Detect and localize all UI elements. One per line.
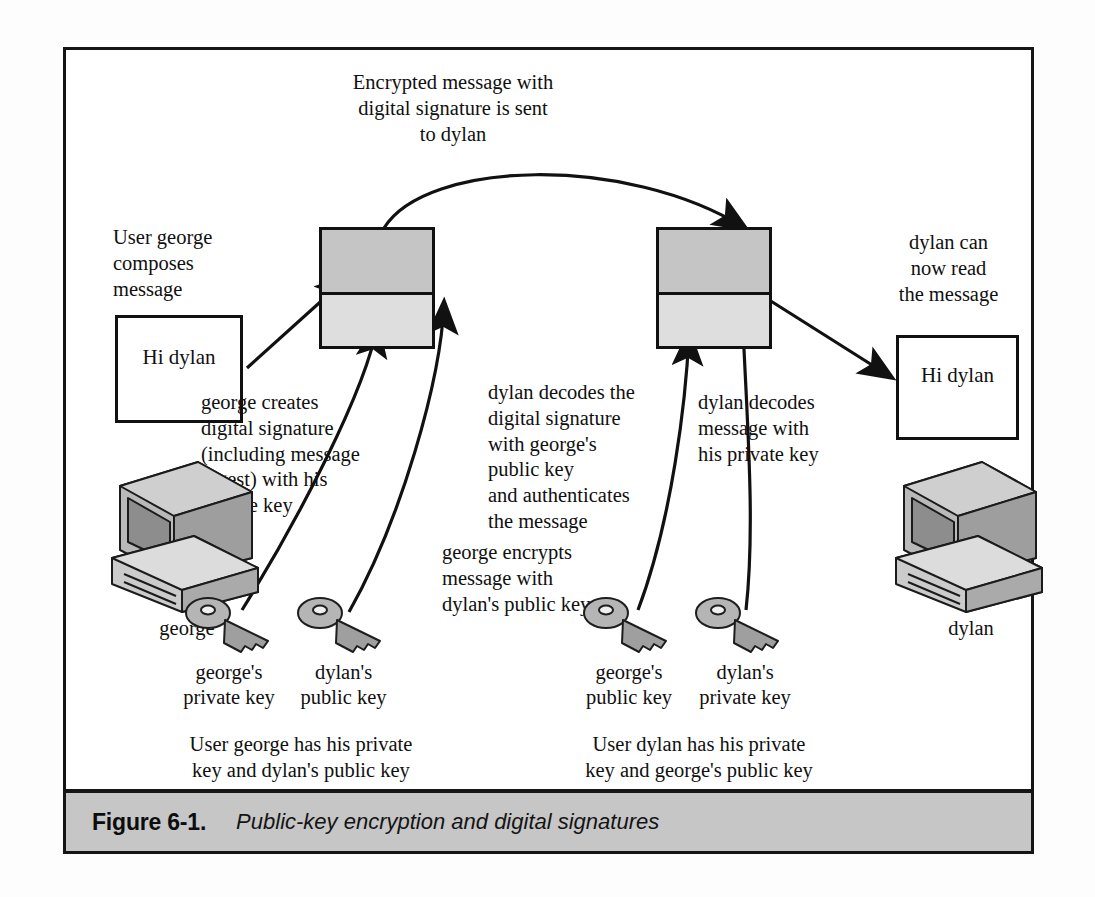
cipher-segment-right [659, 230, 769, 295]
key-icon-george-private [184, 596, 278, 654]
plaintext-right-text: Hi dylan [921, 363, 994, 388]
annotation-verify: dylan decodes the digital signature with… [488, 380, 703, 535]
message-block-right [656, 227, 772, 349]
computer-icon-dylan [886, 450, 1056, 620]
message-block-left [319, 227, 435, 349]
key-icon-george-public [582, 596, 676, 654]
signature-segment-right [659, 295, 769, 346]
plaintext-left-text: Hi dylan [143, 345, 216, 370]
annotation-top-flow: Encrypted message with digital signature… [328, 70, 578, 147]
figure-frame: Encrypted message with digital signature… [63, 47, 1034, 854]
annotation-compose: User george composes message [113, 225, 303, 302]
annotation-read: dylan can now read the message [861, 230, 1036, 307]
figure-title: Public-key encryption and digital signat… [236, 809, 659, 835]
plaintext-box-right: Hi dylan [896, 335, 1019, 440]
cipher-segment-left [322, 230, 432, 295]
machine-label-dylan: dylan [906, 617, 1036, 640]
key-label-george-private: george's private key [164, 660, 294, 710]
key-icon-dylan-private [694, 596, 788, 654]
signature-segment-left [322, 295, 432, 346]
key-label-dylan-public: dylan's public key [281, 660, 406, 710]
annotation-decrypt: dylan decodes message with his private k… [698, 390, 898, 467]
note-george-keys: User george has his private key and dyla… [156, 732, 446, 784]
figure-number: Figure 6-1. [92, 809, 206, 836]
key-label-george-public: george's public key [564, 660, 694, 710]
key-label-dylan-private: dylan's private key [680, 660, 810, 710]
figure-root: Encrypted message with digital signature… [0, 0, 1095, 897]
figure-caption-band: Figure 6-1. Public-key encryption and di… [66, 789, 1031, 851]
note-dylan-keys: User dylan has his private key and georg… [554, 732, 844, 784]
computer-icon-george [102, 450, 272, 620]
arrow-block-to-read [766, 298, 891, 377]
key-icon-dylan-public [296, 596, 390, 654]
arrow-encrypted-transit [384, 175, 745, 228]
